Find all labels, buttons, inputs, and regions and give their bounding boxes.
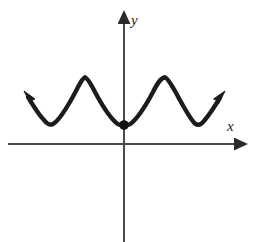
y-axis-label: y: [131, 13, 138, 28]
graph-figure: y x: [0, 0, 255, 242]
x-axis-label: x: [227, 119, 234, 134]
origin-minimum-point: [119, 120, 129, 130]
coordinate-plot: [0, 0, 255, 242]
